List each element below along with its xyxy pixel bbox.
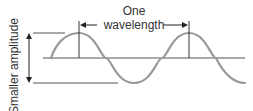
wavelength-label-line1: One [123,4,146,18]
amplitude-label: Smaller amplitude [7,18,21,111]
wavelength-arrow-left [80,22,97,28]
wave-diagram: One wavelength Smaller amplitude [0,0,253,111]
wavelength-label-line2: wavelength [103,18,165,32]
wavelength-arrow-right [163,22,188,28]
amplitude-arrow [26,33,32,83]
